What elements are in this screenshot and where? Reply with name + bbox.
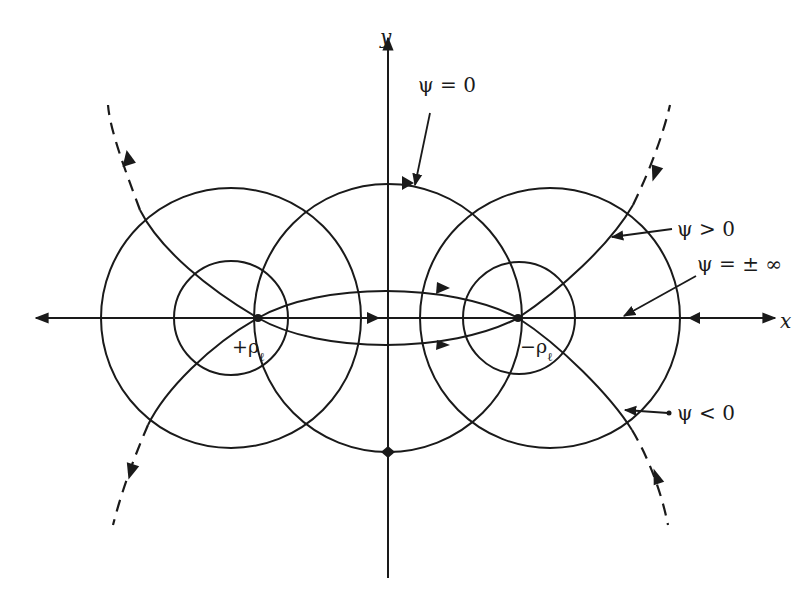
label-psi-zero: ψ = 0 bbox=[418, 73, 476, 97]
label-psi-negative: ψ < 0 bbox=[677, 401, 735, 425]
arrow-left-lower-dashed bbox=[122, 462, 139, 481]
arrow-top-middle bbox=[402, 176, 414, 190]
leader-psi-positive bbox=[612, 229, 672, 237]
label-positive-charge: +ρℓ bbox=[232, 335, 265, 364]
negative-charge-subscript: ℓ bbox=[547, 350, 553, 364]
arrow-upper-lens bbox=[436, 282, 450, 294]
leader-dot-psi-negative bbox=[667, 411, 672, 416]
label-psi-positive: ψ > 0 bbox=[677, 217, 735, 241]
right-lower-dashed bbox=[632, 430, 668, 525]
positive-charge-subscript: ℓ bbox=[259, 350, 265, 364]
x-axis-label: x bbox=[780, 309, 791, 333]
right-upper-line bbox=[518, 205, 633, 318]
line-charge-field-diagram: y x ψ = 0 ψ > 0 ψ = ± ∞ ψ < 0 +ρℓ −ρℓ bbox=[0, 0, 801, 612]
positive-charge-point bbox=[254, 314, 262, 322]
leader-psi-infinity bbox=[624, 276, 696, 316]
arrow-bottom-middle bbox=[381, 446, 395, 458]
arrow-axis-mid bbox=[367, 312, 380, 324]
negative-charge-point bbox=[514, 314, 522, 322]
left-upper-line bbox=[140, 210, 258, 318]
leader-psi-negative bbox=[625, 410, 668, 413]
right-upper-dashed bbox=[633, 105, 670, 205]
left-upper-dashed bbox=[108, 105, 140, 210]
leader-psi-zero bbox=[415, 113, 430, 185]
arrow-axis-right bbox=[688, 312, 700, 324]
y-axis-label: y bbox=[379, 25, 392, 49]
label-psi-infinity: ψ = ± ∞ bbox=[697, 252, 782, 276]
